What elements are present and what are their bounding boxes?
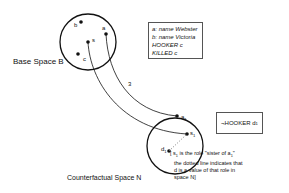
explanatory-note: [ s1 is the role "sister of a1" the dott… — [170, 150, 285, 181]
connector-label: 3 — [128, 81, 131, 87]
label-d1: d1 — [161, 146, 167, 154]
label-c: c — [83, 56, 86, 62]
not-hooker-text: ¬HOOKER d — [221, 120, 256, 126]
point-c — [76, 52, 80, 56]
base-space-label: Base Space B — [13, 58, 64, 66]
label-b: b — [74, 22, 77, 28]
base-space-info-box: a: name Webster b: name Victoria HOOKER … — [148, 22, 203, 59]
label-a: a — [102, 25, 105, 31]
counterfactual-space-label: Counterfactual Space N — [67, 174, 141, 181]
box-line-a: a: name Webster — [152, 25, 199, 33]
box-line-b: b: name Victoria — [152, 33, 199, 41]
note-line-4: space N] — [170, 174, 285, 181]
note-line-2: the dotted line indicates that — [170, 160, 285, 167]
note-line-3: d is a value of that role in — [170, 167, 285, 174]
counterfactual-info-box: ¬HOOKER d1 — [216, 112, 263, 134]
label-a1: a1 — [181, 114, 187, 122]
label-s: s — [92, 37, 95, 43]
dotted-role-line — [169, 134, 187, 151]
box-line-killed: KILLED c — [152, 49, 199, 57]
label-s1: s1 — [190, 130, 195, 138]
box-line-hooker: HOOKER c — [152, 41, 199, 49]
point-b — [79, 20, 83, 24]
note-line-1: [ s1 is the role "sister of a1" — [170, 150, 285, 160]
